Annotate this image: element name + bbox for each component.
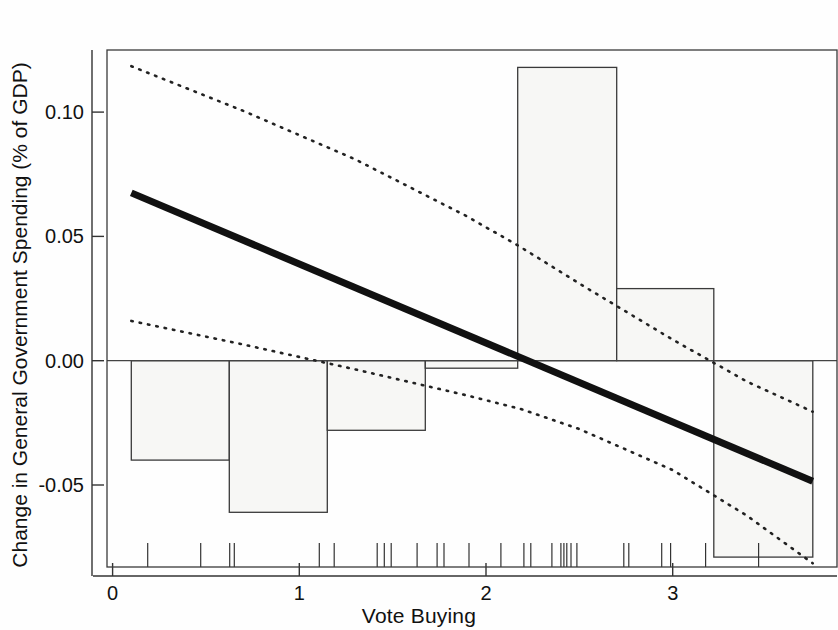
plot-canvas: -0.050.000.050.10 0123 xyxy=(0,0,838,630)
x-tick-label: 2 xyxy=(480,582,491,604)
x-axis-ticks: 0123 xyxy=(107,563,678,604)
histogram-bar xyxy=(327,361,425,431)
x-axis-title: Vote Buying xyxy=(0,604,838,628)
y-tick-label: -0.05 xyxy=(38,474,84,496)
x-tick-label: 1 xyxy=(294,582,305,604)
histogram-bar xyxy=(131,361,229,460)
x-tick-label: 3 xyxy=(667,582,678,604)
histogram-bar xyxy=(229,361,327,513)
y-tick-label: 0.05 xyxy=(45,225,84,247)
rug-marks xyxy=(148,543,759,567)
histogram-bar xyxy=(518,67,617,360)
histogram-bar xyxy=(617,289,714,361)
x-tick-label: 0 xyxy=(107,582,118,604)
histogram-bars xyxy=(131,67,813,557)
y-axis-ticks: -0.050.000.050.10 xyxy=(38,101,104,496)
y-tick-label: 0.00 xyxy=(45,350,84,372)
histogram-bar xyxy=(425,361,517,369)
y-tick-label: 0.10 xyxy=(45,101,84,123)
chart-figure: Change in General Government Spending (%… xyxy=(0,0,838,630)
